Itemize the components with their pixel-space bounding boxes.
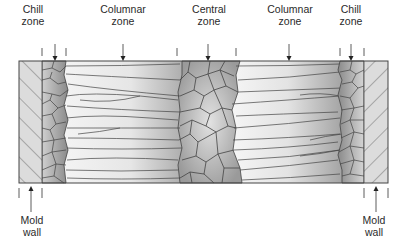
arrow-down-icon xyxy=(349,56,354,61)
arrow-down-icon xyxy=(287,56,292,61)
arrow-down-icon xyxy=(53,56,58,61)
bottom-markers xyxy=(19,188,388,212)
arrow-down-icon xyxy=(121,56,126,61)
arrow-down-icon xyxy=(206,56,211,61)
ingot-cross-section xyxy=(0,0,405,243)
top-markers xyxy=(42,44,364,58)
arrow-up-icon xyxy=(29,186,34,191)
mold-wall-left-hatch xyxy=(19,61,42,183)
bottom-arrowheads xyxy=(29,186,379,191)
arrow-up-icon xyxy=(374,186,379,191)
top-arrowheads xyxy=(53,56,354,61)
mold-wall-right-hatch xyxy=(364,61,388,183)
